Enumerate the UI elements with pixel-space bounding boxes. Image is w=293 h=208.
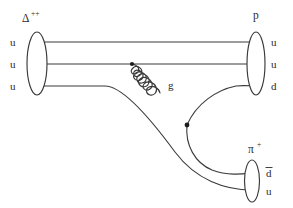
delta-plus-plus-blob (27, 32, 47, 95)
proton-particle-label: p (253, 9, 259, 22)
pion-antiquark-label-dbar: d (266, 167, 272, 179)
pion-particle-label: π (248, 143, 254, 155)
delta-particle-label: Δ (22, 12, 29, 24)
gluon-emission-vertex (130, 62, 134, 66)
proton-quark-label-1: u (271, 36, 277, 48)
gluon-propagator (131, 64, 160, 95)
pion-quark-label-u: u (266, 185, 272, 197)
feynman-diagram-canvas: Δ ++ u u u p u u d π + d u g (0, 0, 293, 208)
gluon-label: g (168, 79, 174, 91)
delta-charge-superscript: ++ (31, 9, 39, 18)
proton-quark-label-2: u (271, 58, 277, 70)
proton-quark-label-3: d (271, 80, 277, 92)
pion-plus-blob (245, 160, 260, 202)
pion-charge-superscript: + (257, 140, 261, 149)
quark-line-u3-to-pion (37, 86, 252, 190)
delta-quark-label-1: u (10, 36, 16, 48)
delta-quark-label-2: u (10, 58, 16, 70)
delta-quark-label-3: u (10, 80, 16, 92)
antiquark-line-dbar-to-pion (187, 125, 252, 174)
gluon-absorption-vertex (185, 123, 190, 128)
quark-line-d-to-proton (187, 86, 256, 125)
proton-blob (247, 32, 265, 95)
